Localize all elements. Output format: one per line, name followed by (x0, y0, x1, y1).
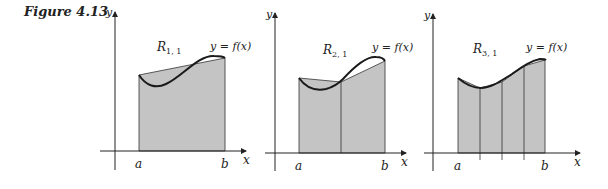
x-axis-label: x (401, 155, 408, 169)
b-label: b (541, 159, 549, 173)
function-label: y = f(x) (525, 41, 567, 54)
y-axis-label: y (423, 9, 431, 22)
x-axis-label: x (574, 155, 581, 169)
function-label: y = f(x) (371, 41, 413, 54)
panel-3: y x a b R3, 1 y = f(x) (423, 9, 581, 173)
trapezoid-fill (458, 60, 545, 153)
region-label: R2, 1 (322, 43, 347, 59)
region-label: R1, 1 (156, 40, 181, 56)
trapezoid-rule-diagram: y x a b R1, 1 y = f(x) y x a b R2, 1 y =… (0, 0, 608, 189)
region-label: R3, 1 (472, 42, 497, 58)
a-label: a (295, 159, 302, 173)
panel-2: y x a b R2, 1 y = f(x) (265, 8, 413, 173)
y-axis-label: y (105, 6, 113, 19)
function-label: y = f(x) (209, 40, 251, 53)
trapezoid-fill (299, 61, 385, 153)
a-label: a (135, 157, 142, 171)
x-axis-label: x (243, 153, 250, 167)
b-label: b (381, 159, 389, 173)
y-axis-label: y (265, 8, 273, 21)
b-label: b (221, 157, 229, 171)
panel-1: y x a b R1, 1 y = f(x) (100, 6, 251, 171)
trapezoid-fill (139, 58, 225, 151)
a-label: a (454, 159, 461, 173)
